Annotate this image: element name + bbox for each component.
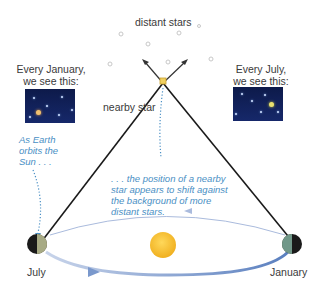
orbit-note: As Earth orbits the Sun . . . [19, 134, 58, 167]
shift-note-line2: star appears to shift against [111, 184, 228, 195]
earth-january-icon [282, 234, 302, 254]
earth-january-label: January [270, 266, 307, 278]
orbit-note-pointer [33, 170, 41, 233]
orbit-note-line3: Sun . . . [19, 156, 58, 167]
shift-note: . . . the position of a nearby star appe… [111, 173, 228, 217]
january-view-line2: we see this: [15, 75, 87, 87]
earth-july-label: July [27, 266, 46, 278]
shift-note-line4: distant stars. [111, 206, 228, 217]
july-sky-view [233, 87, 283, 121]
shift-note-line3: the background of more [111, 195, 228, 206]
shift-note-line1: . . . the position of a nearby [111, 173, 228, 184]
july-view-line2: we see this: [228, 75, 294, 87]
nearby-star-january-icon [36, 110, 41, 115]
nearby-star-icon [160, 78, 166, 84]
parallax-diagram: distant stars Every January, we see this… [0, 0, 318, 290]
july-view-caption: Every July, we see this: [228, 63, 294, 87]
distant-stars-icon [108, 25, 213, 67]
shift-note-pointer [160, 88, 163, 158]
nearby-star-label: nearby star [103, 101, 156, 113]
orbit-note-line1: As Earth [19, 134, 58, 145]
january-view-caption: Every January, we see this: [15, 63, 87, 87]
january-sky-view [25, 89, 75, 123]
earth-july-icon [27, 234, 47, 254]
distant-stars-label: distant stars [135, 16, 192, 28]
july-view-line1: Every July, [228, 63, 294, 75]
orbit-note-line2: orbits the [19, 145, 58, 156]
sun-icon [150, 232, 176, 258]
january-view-line1: Every January, [15, 63, 87, 75]
nearby-star-july-icon [269, 102, 274, 107]
